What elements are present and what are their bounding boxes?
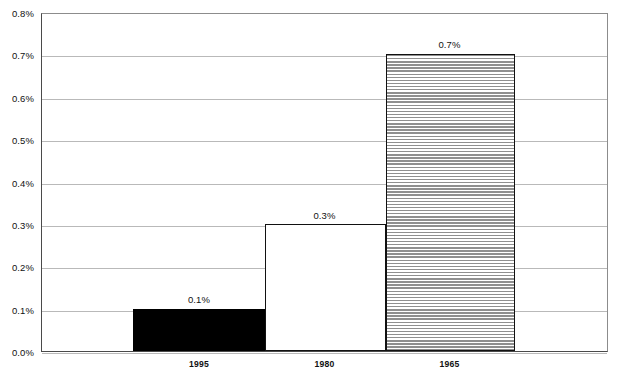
y-tick-label: 0.6% (12, 92, 34, 103)
value-label-1980: 0.3% (264, 210, 385, 221)
y-tick-label: 0.0% (12, 347, 34, 358)
value-label-1995: 0.1% (133, 294, 265, 305)
y-tick-label: 0.8% (12, 8, 34, 19)
y-tick-label: 0.2% (12, 262, 34, 273)
plot-area (41, 13, 608, 352)
y-tick-label: 0.7% (12, 50, 34, 61)
category-label-1965: 1965 (385, 359, 514, 369)
gridline (42, 99, 607, 100)
bar-1980[interactable] (265, 224, 386, 351)
bar-1965[interactable] (386, 54, 515, 351)
gridline (42, 56, 607, 57)
y-tick-label: 0.1% (12, 304, 34, 315)
gridline (42, 184, 607, 185)
bar-chart: 0.8% 0.7% 0.6% 0.5% 0.4% 0.3% 0.2% 0.1% … (0, 0, 618, 379)
y-tick-label: 0.5% (12, 135, 34, 146)
category-label-1980: 1980 (264, 359, 385, 369)
y-tick-label: 0.4% (12, 177, 34, 188)
y-axis-tick-labels: 0.8% 0.7% 0.6% 0.5% 0.4% 0.3% 0.2% 0.1% … (0, 0, 36, 379)
y-tick-label: 0.3% (12, 219, 34, 230)
value-label-1965: 0.7% (385, 39, 514, 50)
category-label-1995: 1995 (133, 359, 265, 369)
gridline (42, 353, 607, 354)
gridline (42, 141, 607, 142)
bar-1995[interactable] (133, 309, 265, 351)
